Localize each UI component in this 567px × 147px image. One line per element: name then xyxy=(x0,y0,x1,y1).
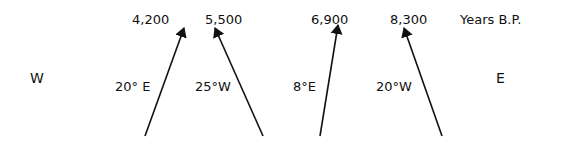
units-label: Years B.P. xyxy=(460,13,521,26)
arrow-4200 xyxy=(145,28,184,136)
age-label-1: 4,200 xyxy=(132,13,169,26)
arrow-6900 xyxy=(320,25,338,136)
east-label: E xyxy=(496,71,505,85)
declination-label-3: 8°E xyxy=(293,80,316,93)
age-label-2: 5,500 xyxy=(205,13,242,26)
age-label-3: 6,900 xyxy=(311,13,348,26)
age-label-4: 8,300 xyxy=(390,13,427,26)
declination-label-2: 25°W xyxy=(195,80,231,93)
west-label: W xyxy=(30,71,44,85)
declination-label-1: 20° E xyxy=(115,80,150,93)
declination-label-4: 20°W xyxy=(376,80,412,93)
